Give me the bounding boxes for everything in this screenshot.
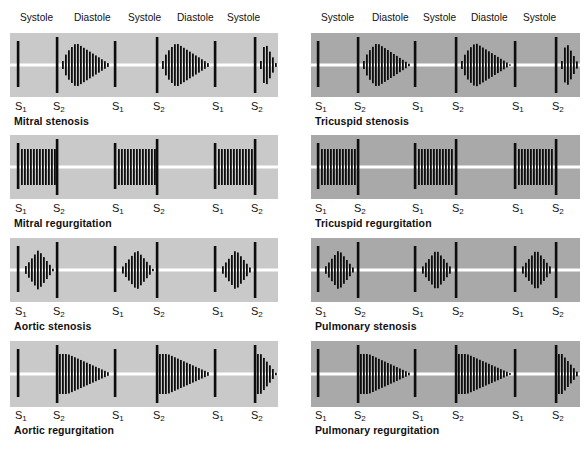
s2-label: S2 <box>153 100 165 114</box>
baseline <box>311 373 580 376</box>
phase-header: Diastole <box>372 11 409 23</box>
panel-mitral-stenosis <box>10 33 278 97</box>
panel-aortic-stenosis <box>10 238 278 302</box>
panel-tricuspid-stenosis <box>311 33 580 97</box>
phonocardiogram <box>311 341 580 407</box>
s1-label: S1 <box>15 409 27 423</box>
s1-label: S1 <box>315 409 327 423</box>
panel-title: Pulmonary regurgitation <box>315 424 439 436</box>
panel-title: Pulmonary stenosis <box>315 320 417 332</box>
baseline <box>10 64 278 67</box>
panel-title: Mitral regurgitation <box>14 217 112 229</box>
panel-pulmonary-regurgitation <box>311 341 580 407</box>
phase-header: Systole <box>20 11 53 23</box>
s2-label: S2 <box>53 100 65 114</box>
panel-tricuspid-regurgitation <box>311 135 580 199</box>
s1-label: S1 <box>15 202 27 216</box>
s1-label: S1 <box>212 409 224 423</box>
baseline <box>10 373 278 376</box>
s1-label: S1 <box>112 305 124 319</box>
s2-label: S2 <box>251 100 263 114</box>
baseline <box>311 269 580 272</box>
s2-label: S2 <box>153 409 165 423</box>
s1-label: S1 <box>512 100 524 114</box>
phase-header: Systole <box>321 11 354 23</box>
baseline <box>311 64 580 67</box>
s2-label: S2 <box>452 305 464 319</box>
s1-label: S1 <box>412 100 424 114</box>
s2-label: S2 <box>452 409 464 423</box>
phonocardiogram <box>311 238 580 302</box>
s1-label: S1 <box>212 202 224 216</box>
panel-title: Mitral stenosis <box>14 115 89 127</box>
phase-header: Diastole <box>471 11 508 23</box>
s2-label: S2 <box>251 305 263 319</box>
s2-label: S2 <box>354 305 366 319</box>
s2-label: S2 <box>53 409 65 423</box>
s2-label: S2 <box>452 202 464 216</box>
panel-aortic-regurgitation <box>10 341 278 407</box>
phonocardiogram <box>10 33 278 97</box>
s1-label: S1 <box>412 409 424 423</box>
panel-title: Aortic regurgitation <box>14 424 114 436</box>
phase-header: Systole <box>523 11 556 23</box>
s2-label: S2 <box>552 305 564 319</box>
phonocardiogram <box>311 135 580 199</box>
s1-label: S1 <box>512 409 524 423</box>
panel-title: Aortic stenosis <box>14 320 91 332</box>
s2-label: S2 <box>552 100 564 114</box>
s1-label: S1 <box>15 100 27 114</box>
s1-label: S1 <box>412 202 424 216</box>
s1-label: S1 <box>315 202 327 216</box>
s2-label: S2 <box>153 202 165 216</box>
s2-label: S2 <box>53 202 65 216</box>
phonocardiogram <box>311 33 580 97</box>
phase-header: Diastole <box>74 11 111 23</box>
phonocardiogram <box>10 135 278 199</box>
s1-label: S1 <box>112 409 124 423</box>
s1-label: S1 <box>412 305 424 319</box>
s1-label: S1 <box>212 305 224 319</box>
panel-title: Tricuspid stenosis <box>315 115 409 127</box>
phonocardiogram <box>10 341 278 407</box>
s2-label: S2 <box>354 202 366 216</box>
s1-label: S1 <box>315 305 327 319</box>
s2-label: S2 <box>251 202 263 216</box>
panel-title: Tricuspid regurgitation <box>315 217 432 229</box>
phase-header: Systole <box>128 11 161 23</box>
phonocardiogram <box>10 238 278 302</box>
s2-label: S2 <box>354 409 366 423</box>
s2-label: S2 <box>251 409 263 423</box>
s1-label: S1 <box>112 100 124 114</box>
s2-label: S2 <box>552 409 564 423</box>
s2-label: S2 <box>153 305 165 319</box>
phase-header: Diastole <box>177 11 214 23</box>
s2-label: S2 <box>552 202 564 216</box>
phase-header: Systole <box>423 11 456 23</box>
s1-label: S1 <box>315 100 327 114</box>
s2-label: S2 <box>354 100 366 114</box>
phase-header: Systole <box>227 11 260 23</box>
s2-label: S2 <box>452 100 464 114</box>
s1-label: S1 <box>212 100 224 114</box>
s1-label: S1 <box>112 202 124 216</box>
s2-label: S2 <box>53 305 65 319</box>
panel-mitral-regurgitation <box>10 135 278 199</box>
s1-label: S1 <box>512 305 524 319</box>
s1-label: S1 <box>15 305 27 319</box>
panel-pulmonary-stenosis <box>311 238 580 302</box>
s1-label: S1 <box>512 202 524 216</box>
